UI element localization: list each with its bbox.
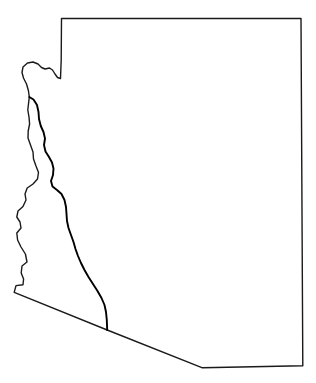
map-svg xyxy=(0,0,316,383)
map-figure xyxy=(0,0,316,383)
